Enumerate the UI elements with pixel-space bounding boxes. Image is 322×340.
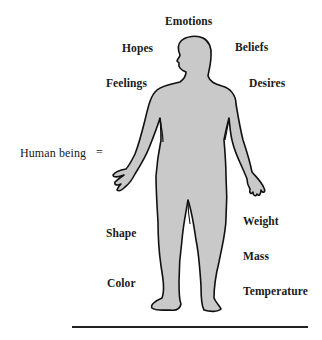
label-emotions: Emotions	[165, 15, 212, 27]
label-feelings: Feelings	[106, 77, 147, 89]
label-hopes: Hopes	[122, 42, 153, 54]
baseline-divider	[72, 326, 308, 328]
label-temperature: Temperature	[243, 285, 308, 297]
label-desires: Desires	[249, 77, 285, 89]
label-weight: Weight	[243, 215, 279, 227]
label-mass: Mass	[243, 250, 269, 262]
label-color: Color	[107, 277, 136, 289]
equals-sign: =	[96, 145, 103, 160]
label-shape: Shape	[106, 227, 137, 239]
label-human-being: Human being	[20, 146, 86, 161]
label-beliefs: Beliefs	[235, 41, 268, 53]
